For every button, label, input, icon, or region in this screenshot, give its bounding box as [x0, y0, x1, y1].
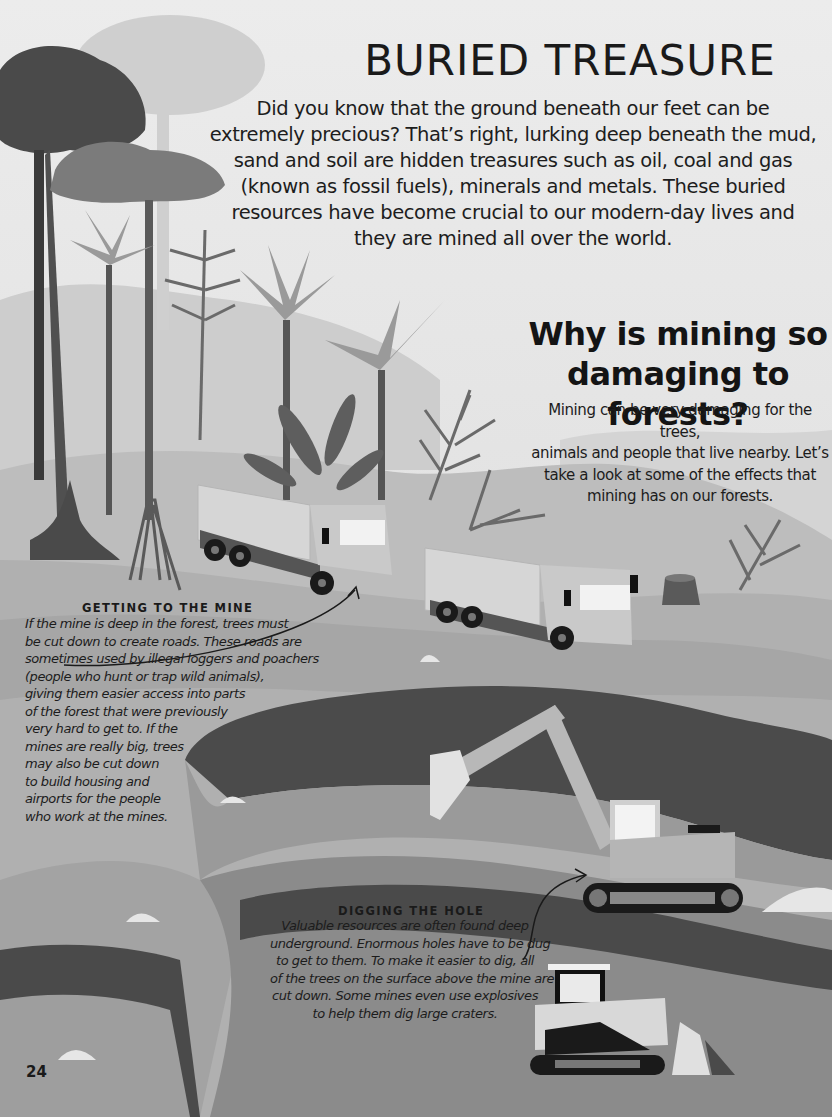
caption-line: If the mine is deep in the forest, trees… [25, 615, 319, 633]
caption-heading-getting-to-mine: GETTING TO THE MINE [82, 601, 253, 615]
intro-paragraph: Did you know that the ground beneath our… [208, 96, 818, 252]
tree-stump [662, 578, 700, 605]
caption-line: to get to them. To make it easier to dig… [270, 952, 540, 970]
page-title: BURIED TREASURE [340, 36, 800, 85]
caption-line: cut down. Some mines even use explosives [270, 987, 540, 1005]
section-body-line: Mining can be very damaging for the tree… [530, 400, 830, 443]
caption-line: Valuable resources are often found deep [270, 917, 540, 935]
section-body-line: take a look at some of the effects that [530, 465, 830, 487]
caption-line: of the trees on the surface above the mi… [270, 970, 540, 988]
caption-line: underground. Enormous holes have to be d… [270, 935, 540, 953]
caption-line: mines are really big, trees [25, 738, 319, 756]
caption-heading-digging-hole: DIGGING THE HOLE [338, 904, 484, 918]
caption-line: airports for the people [25, 790, 319, 808]
caption-line: may also be cut down [25, 755, 319, 773]
caption-line: very hard to get to. If the [25, 720, 319, 738]
caption-line: giving them easier access into parts [25, 685, 319, 703]
caption-line: to help them dig large craters. [270, 1005, 540, 1023]
caption-line: be cut down to create roads. These roads… [25, 633, 319, 651]
section-body-line: animals and people that live nearby. Let… [530, 443, 830, 465]
caption-getting-to-mine: If the mine is deep in the forest, trees… [25, 615, 319, 825]
caption-digging-hole: Valuable resources are often found deep … [270, 917, 540, 1022]
section-heading-line-1: Why is mining so [528, 315, 827, 353]
caption-line: (people who hunt or trap wild animals), [25, 668, 319, 686]
caption-line: of the forest that were previously [25, 703, 319, 721]
book-page: BURIED TREASURE Did you know that the gr… [0, 0, 832, 1117]
caption-line: sometimes used by illegal loggers and po… [25, 650, 319, 668]
caption-line: to build housing and [25, 773, 319, 791]
caption-line: who work at the mines. [25, 808, 319, 826]
section-body: Mining can be very damaging for the tree… [530, 400, 830, 508]
section-body-line: mining has on our forests. [530, 486, 830, 508]
page-number: 24 [26, 1063, 47, 1081]
